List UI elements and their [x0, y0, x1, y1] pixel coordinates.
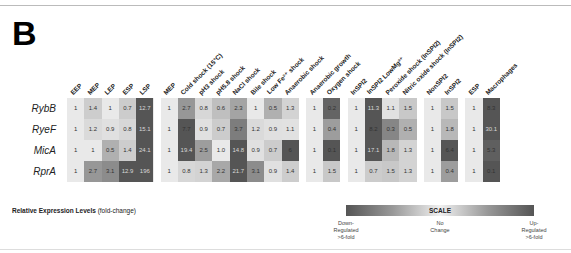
heatmap-group: 18.3130.115.310.1 [465, 98, 500, 182]
heatmap-cell: 0.9 [195, 119, 212, 140]
heatmap-cell: 0.4 [441, 161, 458, 182]
heatmap-cell: 0.9 [247, 140, 264, 161]
row-label: MicA [0, 140, 62, 161]
heatmap-cell: 1 [67, 98, 84, 119]
heatmap-cell: 0.7 [264, 140, 281, 161]
row-label: RybB [0, 98, 62, 119]
heatmap-cell: 14.8 [230, 140, 247, 161]
heatmap-cell: 1 [424, 98, 441, 119]
column-header: Macrophages [484, 61, 519, 96]
scale-center-label: No Change [420, 220, 460, 234]
heatmap-cell: 1.3 [282, 98, 299, 119]
heatmap-cell: 8.2 [365, 119, 382, 140]
heatmap-cell: 2.7 [178, 98, 195, 119]
heatmap-cell: 1.2 [84, 119, 101, 140]
heatmap-cell: 3.7 [230, 119, 247, 140]
column-headers: Anaerobic growthOxygen shock [306, 40, 341, 98]
legend-title-rest: (fold-change) [96, 207, 136, 214]
heatmap-cell: 0.8 [119, 119, 136, 140]
heatmap-cell: 0.7 [119, 98, 136, 119]
heatmap-cell: 12.9 [119, 161, 136, 182]
scale-center-line: No [420, 220, 460, 227]
column-header: ESP [467, 82, 481, 96]
heatmap-cell: 0.5 [399, 119, 416, 140]
legend-title: Relative Expression Levels (fold-change) [12, 207, 136, 214]
heatmap-cell: 2.3 [230, 98, 247, 119]
scale-right-label: Up- Regulated >6-fold [514, 220, 554, 241]
heatmap-cell: 1 [306, 140, 323, 161]
heatmap-cell: 1 [348, 161, 365, 182]
row-label: RyeF [0, 119, 62, 140]
heatmap-cell: 1 [465, 119, 482, 140]
heatmap-cell: 1.5 [441, 98, 458, 119]
heatmap-cell: 0.4 [323, 119, 340, 140]
heatmap-cell: 1.0 [212, 140, 229, 161]
heatmap-cell: 1 [67, 161, 84, 182]
heatmap-cell: 8.3 [483, 98, 500, 119]
heatmap-cell: 0.7 [365, 161, 382, 182]
heatmap-cell: 1 [465, 140, 482, 161]
heatmap-cell: 0.8 [195, 98, 212, 119]
heatmap-cell: 2.5 [195, 140, 212, 161]
heatmap-cell: 1 [306, 119, 323, 140]
heatmap-cell: 2.7 [84, 161, 101, 182]
heatmap-cell: 1 [161, 140, 178, 161]
top-divider [0, 5, 571, 6]
heatmap-cell: 19.4 [178, 140, 195, 161]
heatmap-cell: 1.8 [441, 119, 458, 140]
heatmap-cell: 1 [102, 98, 119, 119]
heatmap-cell: 0.9 [264, 161, 281, 182]
heatmap-group: 111.31.11.518.20.30.5117.11.81.310.71.51… [348, 98, 417, 182]
column-header: MEP [162, 81, 177, 96]
scale-left-line: Regulated [326, 227, 366, 234]
heatmap-cell: 24.1 [136, 140, 153, 161]
heatmap-cell: 15.1 [136, 119, 153, 140]
column-header: LSP [138, 82, 152, 96]
scale-left-label: Down- Regulated >6-fold [326, 220, 366, 241]
heatmap-cell: 0.1 [323, 140, 340, 161]
heatmap-cell: 196 [136, 161, 153, 182]
scale-right-line: Regulated [514, 227, 554, 234]
heatmap-cell: 0.9 [264, 119, 281, 140]
scale-center-line: Change [420, 227, 460, 234]
heatmap-cell: 3.1 [102, 161, 119, 182]
column-headers: MEPCold shock (15°C)pH3 shockpH5.8 shock… [161, 40, 299, 98]
heatmap-cell: 1.5 [323, 161, 340, 182]
heatmap-cell: 1.8 [382, 140, 399, 161]
heatmap-group: 11.511.816.410.4 [424, 98, 459, 182]
heatmap-cell: 1 [161, 161, 178, 182]
heatmap-group: 10.210.410.111.5 [306, 98, 341, 182]
heatmap-cell: 0.9 [102, 119, 119, 140]
heatmap-cell: 3.1 [247, 161, 264, 182]
heatmap-cell: 1 [247, 98, 264, 119]
heatmap-cell: 1.3 [195, 161, 212, 182]
heatmap-cell: 1 [67, 119, 84, 140]
heatmap-cell: 1.4 [282, 161, 299, 182]
heatmap-cell: 21.7 [230, 161, 247, 182]
heatmap-cell: 0.5 [102, 140, 119, 161]
heatmap-cell: 1.1 [382, 98, 399, 119]
column-headers: ESPMacrophages [465, 40, 500, 98]
column-header: ESP [121, 82, 135, 96]
legend-title-bold: Relative Expression Levels [12, 207, 96, 214]
scale-label: SCALE [346, 205, 534, 216]
heatmap-cell: 11.3 [365, 98, 382, 119]
heatmap-cell: 0.1 [483, 161, 500, 182]
scale-bar: SCALE [346, 205, 534, 216]
heatmap-cell: 1.4 [119, 140, 136, 161]
scale-left-line: >6-fold [326, 234, 366, 241]
row-labels: RybBRyeFMicARprA [0, 98, 62, 182]
heatmap-cell: 0.7 [212, 119, 229, 140]
heatmap-cell: 5.3 [483, 140, 500, 161]
row-label: RprA [0, 161, 62, 182]
heatmap-cell: 1 [348, 98, 365, 119]
heatmap-cell: 6 [282, 140, 299, 161]
column-headers: InSPI2InSPI2 LowMg²⁺Peroxide shock (InSP… [348, 40, 417, 98]
heatmap-cell: 0.2 [323, 98, 340, 119]
heatmap-cell: 1.2 [247, 119, 264, 140]
heatmap-cell: 0.8 [178, 161, 195, 182]
heatmap-cell: 1 [67, 140, 84, 161]
heatmap-group: 11.410.712.711.20.90.815.1110.51.424.112… [67, 98, 154, 182]
heatmap-cell: 1.5 [399, 98, 416, 119]
heatmap-cell: 1 [161, 98, 178, 119]
